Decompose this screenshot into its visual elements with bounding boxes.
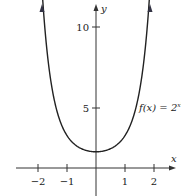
y-axis-arrow-icon <box>94 4 99 11</box>
x-axis-label: x <box>171 153 177 164</box>
x-axis-arrow-icon <box>169 166 176 171</box>
x-tick-label: 2 <box>151 176 157 187</box>
x-tick-label: 1 <box>122 176 128 187</box>
y-tick-label: 10 <box>76 22 89 33</box>
y-axis-label: y <box>100 3 107 14</box>
y-tick-label: 5 <box>83 103 89 114</box>
function-graph: −2 −1 1 2 10 5 x y f(x) = 2x² <box>0 0 181 196</box>
x-tick-label: −1 <box>60 176 75 187</box>
x-tick-label: −2 <box>31 176 46 187</box>
function-label: f(x) = 2x² <box>138 101 181 113</box>
